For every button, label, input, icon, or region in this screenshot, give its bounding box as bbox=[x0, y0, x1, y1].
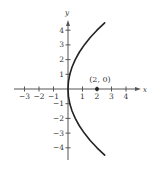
parabola-chart: xy −3−2−11234−4−3−2−11234 (2, 0) bbox=[0, 0, 149, 169]
x-tick-label: −3 bbox=[19, 92, 30, 101]
y-tick-label: −1 bbox=[53, 99, 64, 108]
focus-point-label: (2, 0) bbox=[89, 75, 111, 84]
x-tick-label: −2 bbox=[33, 92, 44, 101]
x-tick-label: 2 bbox=[95, 92, 100, 101]
x-axis-arrow-icon bbox=[135, 87, 141, 91]
x-tick-label: 4 bbox=[124, 92, 129, 101]
y-tick-label: 4 bbox=[59, 26, 64, 35]
x-tick-label: 1 bbox=[80, 92, 85, 101]
y-tick-label: −4 bbox=[53, 143, 64, 152]
y-axis-label: y bbox=[64, 9, 70, 17]
focus-point-marker bbox=[95, 87, 99, 91]
y-tick-label: 2 bbox=[59, 55, 64, 64]
x-tick-label: 3 bbox=[109, 92, 114, 101]
y-tick-label: −2 bbox=[53, 114, 64, 123]
y-tick-label: 1 bbox=[59, 70, 64, 79]
y-tick-label: −3 bbox=[53, 129, 64, 138]
axes: xy bbox=[14, 9, 147, 160]
y-tick-label: 3 bbox=[59, 40, 64, 49]
y-axis-arrow-icon bbox=[66, 20, 70, 26]
x-axis-label: x bbox=[143, 86, 147, 94]
